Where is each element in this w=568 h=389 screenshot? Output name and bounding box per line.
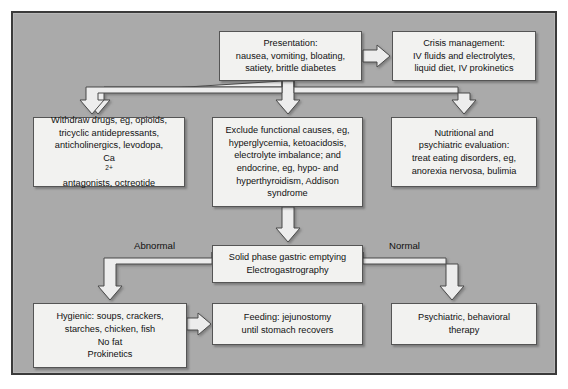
node-nutritional-line-1: Nutritional and [397,127,531,140]
node-presentation-text: Presentation: nausea, vomiting, bloating… [225,37,356,75]
node-feeding-text: Feeding: jejunostomy until stomach recov… [218,311,357,336]
node-exclude-line-5: hyperthyroidism, Addison [218,175,357,188]
node-presentation-line-3: satiety, brittle diabetes [225,62,356,75]
node-presentation-line-2: nausea, vomiting, bloating, [225,50,356,63]
node-feeding-jejunostomy[interactable]: Feeding: jejunostomy until stomach recov… [212,303,363,345]
node-hygienic-line-2: starches, chicken, fish [39,323,181,336]
node-exclude-line-3: electrolyte imbalance; and [218,149,357,162]
node-nutritional-text: Nutritional and psychiatric evaluation: … [397,127,531,177]
node-feeding-line-1: Feeding: jejunostomy [218,311,357,324]
node-exclude-text: Exclude functional causes, eg, hyperglyc… [218,124,357,200]
node-crisis-line-1: Crisis management: [398,37,530,50]
node-withdraw-line-4: Ca2+ antagonists, octreotide [39,152,179,190]
node-crisis-text: Crisis management: IV fluids and electro… [398,37,530,75]
node-hygienic-line-4: Prokinetics [39,348,181,361]
node-nutritional-evaluation[interactable]: Nutritional and psychiatric evaluation: … [391,117,537,187]
node-gastric-emptying[interactable]: Solid phase gastric emptying Electrogast… [212,245,363,283]
node-psychiatric-therapy[interactable]: Psychiatric, behavioral therapy [391,303,537,345]
node-hygienic-line-1: Hygienic: soups, crackers, [39,310,181,323]
node-nutritional-line-2: psychiatric evaluation: [397,139,531,152]
node-exclude-line-6: syndrome [218,187,357,200]
node-withdraw-drugs[interactable]: Withdraw drugs, eg, opioids, tricyclic a… [33,117,185,187]
node-hygienic-line-3: No fat [39,336,181,349]
node-nutritional-line-3: treat eating disorders, eg, [397,152,531,165]
node-exclude-causes[interactable]: Exclude functional causes, eg, hyperglyc… [212,117,363,207]
node-withdraw-text: Withdraw drugs, eg, opioids, tricyclic a… [39,114,179,190]
node-withdraw-line-2: tricyclic antidepressants, [39,127,179,140]
node-crisis-management[interactable]: Crisis management: IV fluids and electro… [392,31,536,81]
node-exclude-line-4: endocrine, eg, hypo- and [218,162,357,175]
diagram-canvas: Presentation: nausea, vomiting, bloating… [0,0,568,389]
node-feeding-line-2: until stomach recovers [218,324,357,337]
node-crisis-line-3: liquid diet, IV prokinetics [398,62,530,75]
node-withdraw-rest: antagonists, octreotide [39,177,179,190]
node-presentation-line-1: Presentation: [225,37,356,50]
node-psychiatric-text: Psychiatric, behavioral therapy [397,311,531,336]
node-crisis-line-2: IV fluids and electrolytes, [398,50,530,63]
node-psychiatric-line-1: Psychiatric, behavioral [397,311,531,324]
node-exclude-line-1: Exclude functional causes, eg, [218,124,357,137]
node-gastric-line-1: Solid phase gastric emptying [218,251,357,264]
node-hygienic-diet[interactable]: Hygienic: soups, crackers, starches, chi… [33,303,187,368]
node-nutritional-line-4: anorexia nervosa, bulimia [397,165,531,178]
node-gastric-line-2: Electrogastrography [218,264,357,277]
node-withdraw-line-1: Withdraw drugs, eg, opioids, [39,114,179,127]
branch-label-abnormal: Abnormal [134,240,175,252]
node-presentation[interactable]: Presentation: nausea, vomiting, bloating… [219,31,362,81]
branch-label-normal: Normal [389,240,420,252]
node-hygienic-text: Hygienic: soups, crackers, starches, chi… [39,310,181,360]
node-gastric-text: Solid phase gastric emptying Electrogast… [218,251,357,276]
node-withdraw-line-3: anticholinergics, levodopa, [39,139,179,152]
node-exclude-line-2: hyperglycemia, ketoacidosis, [218,137,357,150]
node-withdraw-charge: 2+ [105,164,113,171]
node-psychiatric-line-2: therapy [397,324,531,337]
